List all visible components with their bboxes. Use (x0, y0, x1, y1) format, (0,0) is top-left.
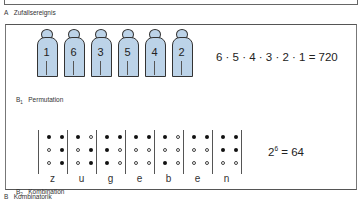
figure-number: 1 (36, 46, 57, 58)
cell-letter: e (183, 173, 212, 184)
braille-cell (154, 130, 183, 174)
open-dot (192, 161, 196, 165)
figure-leg-line (46, 61, 47, 75)
open-dot (134, 161, 138, 165)
section-b-letter: B (4, 193, 8, 200)
filled-dot (163, 161, 167, 165)
filled-dot (192, 135, 196, 139)
filled-dot (163, 135, 167, 139)
open-dot (118, 161, 122, 165)
figure-leg-line (181, 61, 182, 75)
open-dot (205, 148, 209, 152)
person-figure: 6 (63, 29, 85, 77)
filled-dot (147, 135, 151, 139)
filled-dot (221, 135, 225, 139)
filled-dot (89, 148, 93, 152)
open-dot (134, 148, 138, 152)
figure-number: 5 (117, 46, 138, 58)
figure-leg-line (73, 61, 74, 75)
open-dot (221, 161, 225, 165)
figure-leg-line (154, 61, 155, 75)
filled-dot (105, 148, 109, 152)
braille-cell (125, 130, 154, 174)
cell-letter: b (154, 173, 183, 184)
open-dot (89, 135, 93, 139)
person-figure: 4 (144, 29, 166, 77)
filled-dot (76, 135, 80, 139)
filled-dot (118, 135, 122, 139)
section-a-caption: A Zufallsereignis (4, 9, 56, 16)
braille-cell (183, 130, 212, 174)
permutation-caption: B1 Permutation (16, 96, 63, 105)
permutation-figures: 163542 (36, 29, 193, 77)
formula-result: = 64 (278, 146, 304, 158)
filled-dot (47, 135, 51, 139)
open-dot (47, 148, 51, 152)
open-dot (176, 161, 180, 165)
cell-letter: z (38, 173, 67, 184)
figure-number: 6 (63, 46, 84, 58)
open-dot (76, 148, 80, 152)
figure-number: 4 (144, 46, 165, 58)
figure-number: 2 (171, 46, 192, 58)
person-figure: 3 (90, 29, 112, 77)
filled-dot (60, 161, 64, 165)
braille-cell (38, 130, 67, 174)
combination-formula: 26 = 64 (268, 145, 304, 158)
b1-subscript: 1 (20, 100, 23, 105)
open-dot (234, 161, 238, 165)
b1-title: Permutation (28, 96, 63, 103)
braille-cell (212, 130, 242, 174)
open-dot (176, 135, 180, 139)
filled-dot (89, 161, 93, 165)
filled-dot (105, 135, 109, 139)
filled-dot (234, 148, 238, 152)
filled-dot (234, 135, 238, 139)
open-dot (147, 148, 151, 152)
filled-dot (60, 135, 64, 139)
figure-leg-line (127, 61, 128, 75)
open-dot (147, 161, 151, 165)
cell-letter: u (67, 173, 96, 184)
cell-letter: n (212, 173, 241, 184)
open-dot (76, 161, 80, 165)
figure-leg-line (100, 61, 101, 75)
combination-letters: zugeben (38, 173, 241, 184)
filled-dot (60, 148, 64, 152)
filled-dot (221, 148, 225, 152)
section-a-title: Zufallsereignis (14, 9, 56, 16)
open-dot (192, 148, 196, 152)
braille-cell (96, 130, 125, 174)
open-dot (47, 161, 51, 165)
cell-letter: e (125, 173, 154, 184)
braille-cell (67, 130, 96, 174)
person-figure: 1 (36, 29, 58, 77)
section-b-caption: B Kombinatorik (4, 193, 52, 200)
open-dot (176, 148, 180, 152)
section-a-frame (4, 0, 358, 5)
section-b-title: Kombinatorik (14, 193, 52, 200)
person-figure: 5 (117, 29, 139, 77)
open-dot (205, 161, 209, 165)
figure-number: 3 (90, 46, 111, 58)
open-dot (163, 148, 167, 152)
person-figure: 2 (171, 29, 193, 77)
combination-cells (38, 130, 242, 174)
permutation-formula: 6 · 5 · 4 · 3 · 2 · 1 = 720 (216, 51, 338, 63)
filled-dot (205, 135, 209, 139)
filled-dot (134, 135, 138, 139)
open-dot (118, 148, 122, 152)
section-a-letter: A (4, 9, 8, 16)
cell-letter: g (96, 173, 125, 184)
filled-dot (105, 161, 109, 165)
